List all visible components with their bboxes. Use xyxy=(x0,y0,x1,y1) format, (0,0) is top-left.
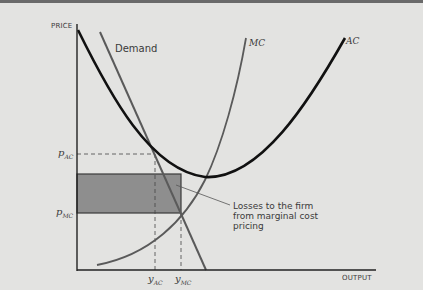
y-axis-label: PRICE xyxy=(51,22,72,30)
mc-label: MC xyxy=(249,38,265,48)
demand-line xyxy=(100,32,206,270)
p-ac-tick-label: pAC xyxy=(58,147,73,160)
loss-annotation-line-2: from marginal cost xyxy=(233,211,318,221)
p-mc-tick-label: pMC xyxy=(56,206,73,219)
loss-annotation-line-1: Losses to the firm xyxy=(233,201,318,211)
loss-leader-line xyxy=(176,185,230,205)
ac-label: AC xyxy=(346,36,359,46)
y-mc-tick-label: yMC xyxy=(175,273,191,286)
loss-annotation: Losses to the firm from marginal cost pr… xyxy=(233,201,318,231)
chart-canvas xyxy=(0,0,423,290)
loss-annotation-line-3: pricing xyxy=(233,221,318,231)
x-axis-label: OUTPUT xyxy=(342,274,372,282)
mc-curve xyxy=(97,38,246,265)
demand-label: Demand xyxy=(115,43,157,54)
y-ac-tick-label: yAC xyxy=(148,273,163,286)
